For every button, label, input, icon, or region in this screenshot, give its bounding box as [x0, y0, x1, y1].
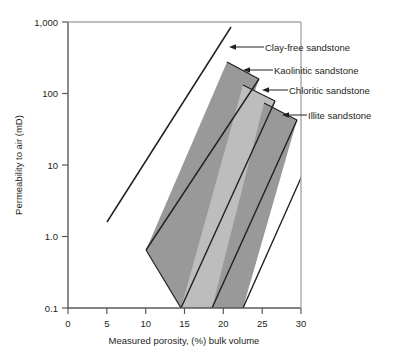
annotation-label-illite: Illite sandstone: [308, 110, 371, 121]
y-tick-label-100: 100: [42, 88, 58, 99]
y-tick-label-10: 10: [47, 160, 58, 171]
chart-figure: 1,000 100 10 1.0 0.1 0 5 10 15 20 25 30 …: [0, 0, 395, 355]
y-tick-label-0.1: 0.1: [45, 303, 58, 314]
y-tick-marks: [62, 22, 68, 308]
x-tick-marks: [68, 308, 301, 314]
annotation-label-kaolinitic: Kaolinitic sandstone: [274, 65, 359, 76]
annotation-label-clay-free: Clay-free sandstone: [265, 42, 350, 53]
x-tick-label-15: 15: [179, 318, 190, 329]
y-tick-label-1: 1.0: [45, 231, 58, 242]
x-tick-label-0: 0: [65, 318, 70, 329]
y-axis-title: Permeability to air (mD): [13, 115, 24, 215]
x-tick-label-10: 10: [140, 318, 151, 329]
x-tick-label-5: 5: [104, 318, 109, 329]
permeability-porosity-chart: 1,000 100 10 1.0 0.1 0 5 10 15 20 25 30 …: [0, 0, 395, 355]
x-tick-label-30: 30: [296, 318, 307, 329]
y-tick-label-1000: 1,000: [34, 17, 58, 28]
x-tick-label-25: 25: [257, 318, 268, 329]
annotation-label-chloritic: Chloritic sandstone: [289, 85, 370, 96]
x-axis-title: Measured porosity, (%) bulk volume: [109, 335, 260, 346]
x-tick-label-20: 20: [218, 318, 229, 329]
